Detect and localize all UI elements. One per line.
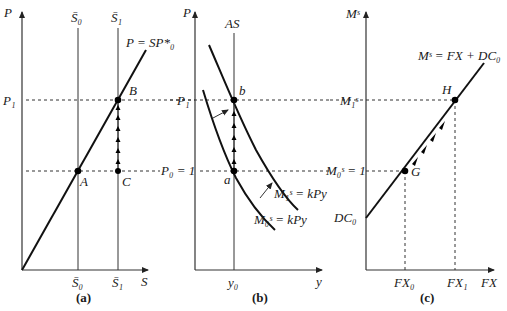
point-c-label: C [122,174,131,189]
intercept-label: DC₀ [333,210,357,225]
point-g-label: G [411,164,421,179]
panel-b-caption: (b) [252,290,268,305]
point-c [115,168,121,174]
money-demand-0-label: M₀ˢ = kPy [253,212,307,227]
point-h-label: H [441,82,452,97]
money-supply-label: Mˢ = FX + DC₀ [417,48,501,63]
y-axis-label: P [3,5,12,20]
p1-label: P₁ [176,93,189,108]
label-pointer-arrow [260,183,272,198]
x-axis-label: FX [480,275,498,290]
y-axis-label: P [182,5,191,20]
panel-a: P S S̄₀ S̄₁ P = SP*₀ P₁ A B C S [2,5,195,305]
panel-a-caption: (a) [76,290,91,305]
adjustment-arrows [412,121,445,166]
panel-b: P y AS P₁ P₀ = 1 b a M₁ˢ = kPy M₀ˢ = kPy [160,5,330,305]
price-line-label: P = SP*₀ [125,35,174,50]
m0-label: M₀ˢ = 1 [325,163,366,178]
point-b-label: b [239,83,246,98]
x-tick-s1: S̄₁ [112,275,123,290]
p0-label: P₀ = 1 [160,163,195,178]
money-demand-0-curve [203,90,275,230]
point-g [402,168,409,175]
shift-arrow [213,110,228,118]
x-axis-label: y [314,274,322,289]
point-b-label: B [129,83,137,98]
figure-canvas: P S S̄₀ S̄₁ P = SP*₀ P₁ A B C S [0,0,507,311]
x-tick-y0: y₀ [226,275,238,290]
x-axis-label: S [141,274,148,289]
stock-1-label: S̄₁ [111,10,122,25]
point-a [231,168,238,175]
price-line [22,50,146,270]
x-tick-fx0: FX₀ [393,275,414,290]
m1-label: M₁ˢ [339,93,359,108]
panel-c: Mˢ FX M₁ˢ M₀ˢ = 1 Mˢ = FX + DC₀ DC₀ G H … [325,6,501,305]
point-a-label: a [224,172,231,187]
x-tick-s0: S̄₀ [72,275,83,290]
point-b [115,97,122,104]
panel-c-caption: (c) [420,290,434,305]
stock-0-label: S̄₀ [71,10,82,25]
y-axis-label: Mˢ [345,6,361,21]
money-demand-1-label: M₁ˢ = kPy [273,186,327,201]
p1-label: P₁ [2,93,15,108]
point-h [452,97,459,104]
money-supply-line [366,63,484,218]
point-b [231,97,238,104]
x-tick-fx1: FX₁ [446,275,467,290]
point-a-label: A [79,174,88,189]
aggregate-supply-label: AS [224,16,240,31]
